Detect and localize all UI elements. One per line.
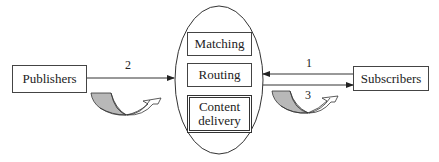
content-delivery-component: Content delivery bbox=[187, 95, 252, 133]
routing-component: Routing bbox=[187, 63, 252, 87]
routing-label: Routing bbox=[199, 68, 241, 82]
content-delivery-line1: Content bbox=[199, 100, 240, 114]
edge-label-1: 1 bbox=[306, 56, 312, 71]
edge-label-3: 3 bbox=[305, 88, 311, 103]
matching-label: Matching bbox=[195, 37, 245, 51]
curved-arrow-left-icon bbox=[91, 93, 161, 115]
subscribers-node: Subscribers bbox=[353, 66, 429, 91]
subscribers-label: Subscribers bbox=[361, 72, 422, 86]
publishers-label: Publishers bbox=[22, 72, 76, 86]
content-delivery-line2: delivery bbox=[198, 114, 241, 128]
publishers-node: Publishers bbox=[12, 65, 87, 93]
matching-component: Matching bbox=[187, 32, 252, 56]
edge-label-2: 2 bbox=[125, 58, 131, 73]
